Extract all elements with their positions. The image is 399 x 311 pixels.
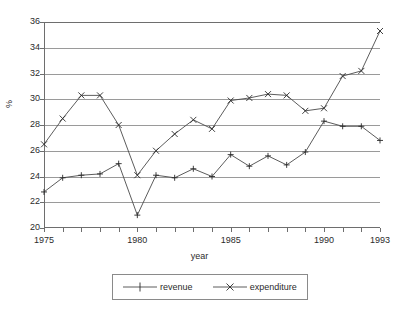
y-tick-mark xyxy=(40,151,44,152)
legend-label-revenue: revenue xyxy=(160,282,193,292)
gridline xyxy=(45,99,380,100)
plus-marker-icon xyxy=(123,282,157,292)
y-tick-label: 34 xyxy=(18,42,40,52)
y-tick-label: 22 xyxy=(18,196,40,206)
x-tick-mark xyxy=(361,228,362,232)
x-tick-mark xyxy=(287,228,288,232)
y-tick-mark xyxy=(40,48,44,49)
x-tick-mark xyxy=(63,228,64,232)
x-tick-mark xyxy=(175,228,176,232)
y-tick-mark xyxy=(40,74,44,75)
legend-entry-expenditure: expenditure xyxy=(213,282,297,292)
legend: revenue expenditure xyxy=(112,274,308,300)
x-tick-mark xyxy=(137,228,138,232)
x-tick-mark xyxy=(44,228,45,232)
gridline xyxy=(45,202,380,203)
legend-entry-revenue: revenue xyxy=(123,282,193,292)
gridline xyxy=(45,48,380,49)
y-tick-label: 32 xyxy=(18,68,40,78)
y-axis-title: % xyxy=(4,100,14,108)
gridline xyxy=(45,22,380,23)
y-tick-mark xyxy=(40,22,44,23)
y-tick-label: 24 xyxy=(18,171,40,181)
y-tick-mark xyxy=(40,177,44,178)
x-tick-mark xyxy=(212,228,213,232)
x-tick-mark xyxy=(193,228,194,232)
x-tick-mark xyxy=(119,228,120,232)
y-tick-mark xyxy=(40,202,44,203)
gridline xyxy=(45,177,380,178)
plot-area xyxy=(44,22,380,228)
x-tick-mark xyxy=(343,228,344,232)
y-tick-label: 26 xyxy=(18,145,40,155)
x-tick-mark xyxy=(231,228,232,232)
y-tick-label: 30 xyxy=(18,93,40,103)
x-tick-mark xyxy=(268,228,269,232)
x-tick-label: 1993 xyxy=(370,235,390,245)
x-tick-mark xyxy=(81,228,82,232)
x-tick-label: 1990 xyxy=(314,235,334,245)
x-tick-label: 1980 xyxy=(127,235,147,245)
x-axis-title: year xyxy=(0,251,399,261)
gridline xyxy=(45,151,380,152)
y-tick-label: 28 xyxy=(18,119,40,129)
gridline xyxy=(45,125,380,126)
legend-label-expenditure: expenditure xyxy=(250,282,297,292)
cross-marker-icon xyxy=(213,282,247,292)
x-tick-label: 1975 xyxy=(34,235,54,245)
y-tick-label: 36 xyxy=(18,16,40,26)
y-tick-label: 20 xyxy=(18,222,40,232)
x-tick-mark xyxy=(380,228,381,232)
x-tick-mark xyxy=(100,228,101,232)
x-tick-mark xyxy=(249,228,250,232)
x-tick-mark xyxy=(156,228,157,232)
x-tick-mark xyxy=(324,228,325,232)
line-chart: % 202224262830323436 1975198019851990199… xyxy=(0,0,399,311)
y-tick-mark xyxy=(40,125,44,126)
x-tick-label: 1985 xyxy=(221,235,241,245)
y-tick-mark xyxy=(40,99,44,100)
gridline xyxy=(45,74,380,75)
x-tick-mark xyxy=(305,228,306,232)
